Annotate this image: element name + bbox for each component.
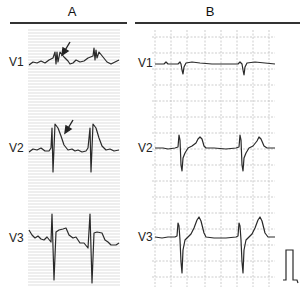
panel-b-lead-v1-label: V1 xyxy=(138,56,153,70)
panel-a-lead-v1-label: V1 xyxy=(9,55,24,69)
arrow-icon xyxy=(65,120,73,133)
calibration-pulse-icon xyxy=(283,250,298,283)
panel-b-v1-trace xyxy=(155,62,275,75)
panel-b-lead-v2-label: V2 xyxy=(138,141,153,155)
panel-b-grid xyxy=(152,30,275,287)
panel-a-grid xyxy=(28,30,120,285)
panel-b-v2-trace xyxy=(155,135,275,171)
panel-a-lead-v3-label: V3 xyxy=(9,231,24,245)
panel-a-v3-trace xyxy=(29,214,119,283)
panel-b-lead-v3-label: V3 xyxy=(138,230,153,244)
panel-a-v1-trace xyxy=(29,48,119,65)
ecg-figure xyxy=(0,0,308,300)
arrow-icon xyxy=(62,42,70,55)
panel-a-lead-v2-label: V2 xyxy=(9,141,24,155)
